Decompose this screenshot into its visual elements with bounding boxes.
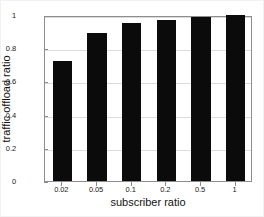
bar — [122, 23, 141, 181]
plot-area — [44, 16, 252, 182]
x-tick-mark — [61, 182, 62, 186]
x-tick-label: 0.02 — [54, 186, 68, 194]
x-tick-label: 0.1 — [126, 186, 136, 194]
bar — [191, 17, 210, 181]
x-tick-mark — [96, 182, 97, 186]
x-tick-label: 0.2 — [160, 186, 170, 194]
x-tick-label: 0.05 — [89, 186, 103, 194]
bar — [226, 15, 245, 181]
x-tick-mark — [165, 182, 166, 186]
bar — [157, 20, 176, 181]
x-tick-label: 0.5 — [195, 186, 205, 194]
y-tick-mark — [44, 182, 48, 183]
y-tick-mark — [44, 49, 48, 50]
y-tick-mark — [44, 149, 48, 150]
y-axis-title: traffic offload ratio — [0, 16, 14, 182]
y-tick-mark — [44, 16, 48, 17]
bar-chart-figure: 00.20.40.60.81 0.020.050.10.20.51 subscr… — [0, 0, 264, 217]
bar-series — [45, 17, 251, 181]
x-tick-mark — [235, 182, 236, 186]
x-tick-mark — [131, 182, 132, 186]
y-tick-mark — [44, 116, 48, 117]
x-tick-label: 1 — [233, 186, 237, 194]
bar — [53, 61, 72, 181]
y-tick-mark — [44, 82, 48, 83]
x-tick-mark — [200, 182, 201, 186]
x-axis-title: subscriber ratio — [44, 196, 252, 208]
bar — [87, 33, 106, 181]
